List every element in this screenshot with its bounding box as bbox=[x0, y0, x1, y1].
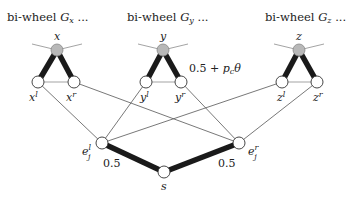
node-s bbox=[158, 166, 170, 178]
node-ejl bbox=[96, 137, 108, 149]
label-ejl: elj bbox=[82, 143, 92, 161]
node-z bbox=[293, 44, 305, 56]
label-s: s bbox=[161, 180, 167, 193]
node-yl bbox=[140, 76, 152, 88]
label-y: y bbox=[159, 30, 167, 43]
weight-left: 0.5 bbox=[103, 157, 121, 170]
label-z: z bbox=[295, 30, 302, 43]
node-xl bbox=[32, 76, 44, 88]
weight-y-triangle: 0.5 + pcθ bbox=[189, 62, 241, 76]
label-xr: xr bbox=[66, 90, 77, 104]
node-x bbox=[51, 44, 63, 56]
bi-wheel-diagram: bi-wheel Gx ... bi-wheel Gy ... bi-wheel… bbox=[0, 0, 352, 203]
node-xr bbox=[68, 76, 80, 88]
node-zl bbox=[276, 76, 288, 88]
weight-right: 0.5 bbox=[218, 157, 236, 170]
node-y bbox=[157, 44, 169, 56]
label-zl: zl bbox=[276, 90, 286, 104]
edge-yr-ejr bbox=[181, 82, 239, 143]
node-ejr bbox=[233, 137, 245, 149]
thick-edges bbox=[38, 50, 317, 172]
label-x: x bbox=[54, 30, 61, 43]
label-zr: zr bbox=[312, 90, 324, 104]
label-xl: xl bbox=[29, 90, 38, 104]
label-ejr: erj bbox=[248, 143, 260, 161]
node-zr bbox=[311, 76, 323, 88]
header-gz: bi-wheel Gz ... bbox=[265, 10, 346, 25]
label-yl: yl bbox=[139, 90, 149, 104]
label-yr: yr bbox=[174, 90, 186, 104]
node-yr bbox=[175, 76, 187, 88]
header-gx: bi-wheel Gx ... bbox=[7, 10, 88, 25]
edge-xr-ejr bbox=[74, 82, 239, 143]
hub-spokes bbox=[32, 44, 324, 50]
header-gy: bi-wheel Gy ... bbox=[127, 10, 208, 25]
edge-zl-ejl bbox=[102, 82, 282, 143]
